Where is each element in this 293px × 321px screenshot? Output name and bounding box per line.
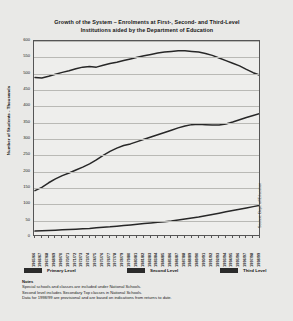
- x-axis-tick-label: 1983/84: [154, 253, 158, 267]
- gridline: [34, 221, 259, 222]
- y-axis-tick-label: 150: [23, 185, 30, 189]
- x-axis-tick-label: 1993/94: [223, 253, 227, 267]
- note-line: Data for 1998/99 are provisional and are…: [22, 295, 252, 300]
- x-axis-tick-label: 1986/87: [175, 253, 179, 267]
- x-axis-tick-label: 1977/78: [114, 253, 118, 267]
- plot-area: [33, 40, 260, 236]
- x-axis-tick-label: 1975/76: [100, 253, 104, 267]
- x-axis-tick-label: 1998/99: [257, 253, 261, 267]
- y-axis-tick-label: 450: [23, 87, 30, 91]
- x-axis-tick-label: 1991/92: [209, 253, 213, 267]
- x-axis-labels: 1965/661966/671967/681968/691969/701970/…: [33, 237, 260, 267]
- legend-label: Third Level: [243, 268, 266, 273]
- x-axis-tick-label: 1969/70: [59, 253, 63, 267]
- gridline: [34, 57, 259, 58]
- source-note: Source: Dept. of Education: [258, 158, 262, 228]
- x-axis-tick-label: 1974/75: [93, 253, 97, 267]
- y-axis-tick-label: 500: [23, 71, 30, 75]
- y-axis-tick-label: 350: [23, 120, 30, 124]
- x-axis-tick-label: 1966/67: [39, 253, 43, 267]
- x-axis-tick-label: 1995/96: [236, 253, 240, 267]
- y-axis-tick-label: 550: [23, 54, 30, 58]
- y-axis-tick-label: 100: [23, 201, 30, 205]
- legend-swatch: [127, 268, 145, 273]
- x-axis-tick-label: 1981/82: [141, 253, 145, 267]
- chart-page: Growth of the System – Enrolments at Fir…: [0, 0, 293, 321]
- legend-label: Primary Level: [47, 268, 76, 273]
- y-axis-tick-label: 600: [23, 38, 30, 42]
- y-axis-title: Number of Students - Thousands: [6, 61, 11, 181]
- x-axis-tick-label: 1997/98: [250, 253, 254, 267]
- gridline: [34, 41, 259, 42]
- x-axis-tick-label: 1967/68: [45, 253, 49, 267]
- x-axis-tick-label: 1992/93: [216, 253, 220, 267]
- x-axis-tick-label: 1985/86: [168, 253, 172, 267]
- legend-swatch: [24, 268, 42, 273]
- data-series-second-level: [35, 114, 260, 191]
- gridline: [34, 204, 259, 205]
- x-axis-tick-label: 1976/77: [107, 253, 111, 267]
- x-axis-tick-label: 1972/73: [79, 253, 83, 267]
- gridline: [34, 155, 259, 156]
- gridline: [34, 188, 259, 189]
- x-axis-tick-label: 1988/89: [189, 253, 193, 267]
- chart-title-line1: Growth of the System – Enrolments at Fir…: [54, 19, 239, 25]
- x-axis-tick-label: 1978/79: [120, 253, 124, 267]
- y-axis-tick-label: 0: [28, 234, 30, 238]
- gridline: [34, 74, 259, 75]
- y-axis-tick-label: 250: [23, 152, 30, 156]
- legend-label: Second Level: [150, 268, 178, 273]
- chart-legend: Primary LevelSecond LevelThird Level: [24, 267, 274, 276]
- chart-notes: Notes Special schools and classes are in…: [22, 279, 252, 300]
- x-axis-tick-label: 1990/91: [202, 253, 206, 267]
- x-axis-tick-label: 1996/97: [243, 253, 247, 267]
- chart-title-line2: Institutions aided by the Department of …: [18, 27, 276, 35]
- y-axis-tick-label: 400: [23, 103, 30, 107]
- x-axis-tick-label: 1989/90: [195, 253, 199, 267]
- x-axis-tick-label: 1987/88: [182, 253, 186, 267]
- x-axis-tick-label: 1979/80: [127, 253, 131, 267]
- gridline: [34, 90, 259, 91]
- gridline: [34, 123, 259, 124]
- gridline: [34, 106, 259, 107]
- legend-swatch: [220, 268, 238, 273]
- x-axis-tick-label: 1971/72: [73, 253, 77, 267]
- y-axis-tick-label: 200: [23, 169, 30, 173]
- y-axis-tick-label: 50: [25, 218, 30, 222]
- x-axis-tick-label: 1982/83: [148, 253, 152, 267]
- gridline: [34, 139, 259, 140]
- chart-title: Growth of the System – Enrolments at Fir…: [18, 19, 276, 34]
- x-axis-tick-label: 1984/85: [161, 253, 165, 267]
- gridline: [34, 172, 259, 173]
- x-axis-tick-label: 1980/81: [134, 253, 138, 267]
- x-axis-tick-label: 1968/69: [52, 253, 56, 267]
- x-axis-tick-label: 1970/71: [66, 253, 70, 267]
- x-axis-tick-label: 1973/74: [86, 253, 90, 267]
- x-axis-tick-label: 1965/66: [32, 253, 36, 267]
- data-series-third-level: [35, 205, 260, 231]
- x-axis-tick-label: 1994/95: [229, 253, 233, 267]
- y-axis-tick-label: 300: [23, 136, 30, 140]
- chart-area: [33, 40, 260, 236]
